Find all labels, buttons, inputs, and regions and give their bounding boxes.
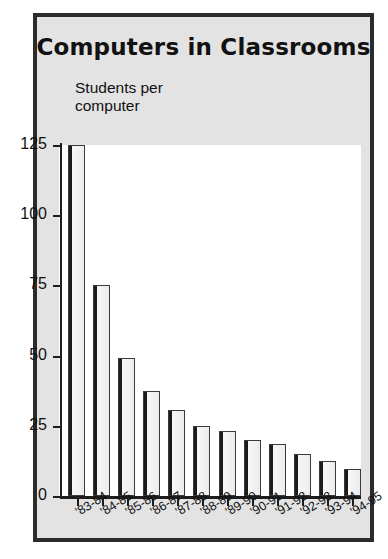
chart-frame: Computers in Classrooms Students per com… bbox=[33, 13, 374, 542]
y-axis-tick: 0 bbox=[53, 496, 62, 498]
chart-figure: Computers in Classrooms Students per com… bbox=[0, 0, 388, 559]
bar bbox=[193, 426, 210, 496]
bar bbox=[219, 431, 236, 496]
bar bbox=[244, 440, 261, 496]
bar-series bbox=[60, 145, 361, 496]
y-axis-tick-label: 100 bbox=[20, 205, 47, 223]
y-axis-tick-label: 75 bbox=[29, 275, 47, 293]
y-axis-tick-label: 25 bbox=[29, 416, 47, 434]
y-axis-tick-label: 125 bbox=[20, 135, 47, 153]
bar bbox=[168, 410, 185, 496]
bar bbox=[118, 358, 135, 496]
bar bbox=[93, 285, 110, 496]
y-axis-tick-label: 50 bbox=[29, 346, 47, 364]
y-axis-tick-label: 0 bbox=[38, 486, 47, 504]
bar bbox=[68, 145, 85, 496]
bar bbox=[143, 391, 160, 496]
plot-area: 0255075100125 '83-84'84-85'85-86'86-87'8… bbox=[37, 17, 378, 546]
